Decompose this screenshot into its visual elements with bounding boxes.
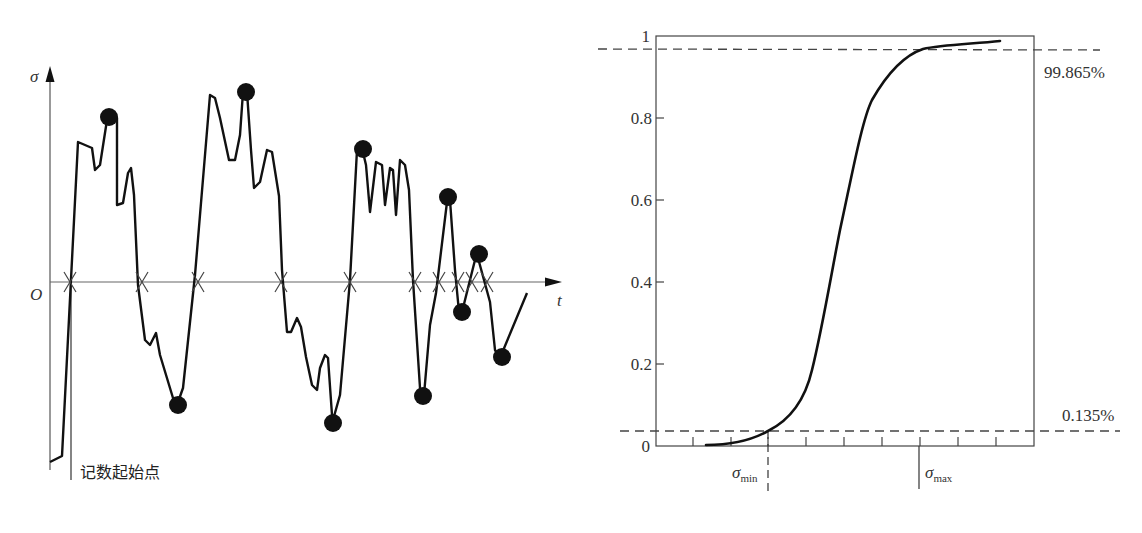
y-tick-labels: 0 0.2 0.4 0.6 0.8 1 <box>631 27 653 456</box>
valley-dot <box>169 396 187 414</box>
valley-dot <box>493 348 511 366</box>
peak-dot <box>100 108 118 126</box>
peak-dot <box>237 83 255 101</box>
x-axis-arrow-icon <box>545 278 562 287</box>
sigma-max-label: σmax <box>925 463 953 484</box>
y-tick-label: 0.4 <box>631 273 653 292</box>
cdf-curve <box>706 41 1000 445</box>
y-tick-label: 0.6 <box>631 191 652 210</box>
origin-label: O <box>30 285 42 304</box>
peak-dot <box>439 188 457 206</box>
valley-dot <box>324 414 342 432</box>
plot-frame <box>656 36 1034 446</box>
right-chart: 0 0.2 0.4 0.6 0.8 1 99.865% 0.135% σmin <box>598 27 1120 492</box>
left-chart: σ t O 记数起始点 <box>30 66 563 482</box>
valley-dot <box>453 303 471 321</box>
upper-reference-line <box>598 49 1100 50</box>
y-tick-label: 0.8 <box>631 109 652 128</box>
y-tick-label: 0.2 <box>631 355 652 374</box>
y-ticks <box>656 118 664 364</box>
x-axis-label: t <box>557 291 563 310</box>
sigma-min-label: σmin <box>732 463 758 484</box>
y-axis-label: σ <box>30 67 39 86</box>
valley-dot <box>414 387 432 405</box>
y-axis-arrow-icon <box>46 66 55 82</box>
figure-canvas: σ t O 记数起始点 <box>0 0 1142 533</box>
y-tick-label: 1 <box>642 27 651 46</box>
upper-line-label: 99.865% <box>1044 63 1105 82</box>
counting-start-label: 记数起始点 <box>80 463 160 482</box>
extrema-markers <box>100 83 511 432</box>
peak-dot <box>470 245 488 263</box>
y-tick-label: 0 <box>642 437 651 456</box>
lower-line-label: 0.135% <box>1062 406 1114 425</box>
peak-dot <box>354 140 372 158</box>
